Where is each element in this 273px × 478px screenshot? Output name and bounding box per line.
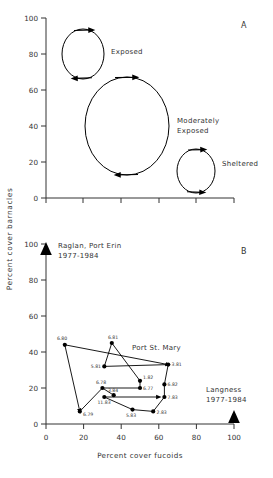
- panel-a-x-ticks: [46, 198, 234, 203]
- langness-label-line1: Langness: [206, 386, 242, 394]
- y-ticklabel-40: 40: [29, 348, 39, 357]
- datapoint-label: 6.81: [108, 335, 118, 340]
- panel-b-svg: 0 20 40 60 80 100 0 20 40 60 8: [14, 232, 273, 478]
- panel-b-letter: B: [241, 247, 247, 256]
- x-ticklabel-20: 20: [79, 433, 89, 442]
- raglan-label-line2: 1977-1984: [58, 252, 99, 260]
- datapoint-marker: [166, 363, 170, 367]
- traj-segment-1: [65, 345, 80, 412]
- datapoint: 3.84: [108, 388, 118, 397]
- panel-b-site-label: Port St. Mary: [132, 344, 181, 352]
- cycle-moderately-exposed-ellipse: [85, 77, 169, 175]
- datapoint-label: 6.77: [143, 386, 153, 391]
- annotation-raglan: Raglan, Port Erin 1977-1984: [40, 242, 121, 260]
- datapoint-marker: [138, 386, 142, 390]
- datapoint: 6.78: [96, 380, 106, 390]
- datapoint-marker: [100, 386, 104, 390]
- panel-b-x-ticks: [46, 424, 234, 429]
- datapoint-marker: [78, 409, 82, 413]
- cycle-moderately-exposed-arrow-bottom: [117, 175, 138, 176]
- datapoint-label: 6.79: [83, 412, 93, 417]
- y-ticklabel-0: 0: [33, 194, 38, 203]
- cycle-sheltered: Sheltered: [177, 149, 258, 193]
- x-ticklabel-60: 60: [154, 433, 164, 442]
- y-ticklabel-20: 20: [29, 384, 39, 393]
- datapoint-marker: [138, 379, 142, 383]
- datapoint-label: 1.82: [143, 375, 153, 380]
- y-axis-label: Percent cover barnacles: [5, 188, 14, 291]
- datapoint-label: 5.81: [91, 364, 101, 369]
- panel-b-x-ticklabels: 0 20 40 60 80 100: [44, 433, 242, 442]
- datapoint: 3.81: [166, 362, 182, 367]
- datapoint: 6.79: [78, 409, 94, 417]
- datapoint-label: 2.83: [157, 410, 167, 415]
- x-ticklabel-80: 80: [192, 433, 202, 442]
- annotation-langness: Langness 1977-1984: [206, 386, 247, 423]
- cycle-moderately-exposed-label-line2: Exposed: [177, 127, 209, 135]
- datapoint-label: 5.83: [126, 413, 136, 418]
- langness-triangle-marker: [228, 410, 240, 423]
- datapoint: 6.81: [108, 335, 118, 345]
- datapoint-label: 6.82: [168, 382, 178, 387]
- datapoint-marker: [162, 382, 166, 386]
- y-ticklabel-100: 100: [24, 240, 38, 249]
- cycle-exposed-label: Exposed: [111, 48, 143, 56]
- datapoint: 2.83: [151, 409, 167, 415]
- traj-segment-14: [133, 410, 154, 412]
- datapoint-marker: [63, 343, 67, 347]
- datapoint-marker: [130, 408, 134, 412]
- cycle-exposed: Exposed: [62, 29, 143, 79]
- raglan-label-line1: Raglan, Port Erin: [58, 242, 121, 250]
- y-ticklabel-80: 80: [29, 50, 39, 59]
- datapoint-marker: [102, 395, 106, 399]
- panel-b: 0 20 40 60 80 100 0 20 40 60 8: [14, 232, 273, 478]
- cycle-moderately-exposed: Moderately Exposed: [85, 77, 219, 175]
- cycle-exposed-ellipse: [62, 29, 104, 79]
- datapoint: 11.83: [97, 395, 110, 405]
- cycle-moderately-exposed-label-line1: Moderately: [177, 117, 219, 125]
- datapoint: 7.83: [162, 395, 178, 400]
- datapoint-label: 7.83: [168, 395, 178, 400]
- panel-a-svg: 0 20 40 60 80 100: [14, 0, 273, 232]
- y-ticklabel-60: 60: [29, 312, 39, 321]
- cycle-sheltered-label: Sheltered: [222, 160, 258, 168]
- y-ticklabel-100: 100: [24, 14, 38, 23]
- datapoint: 6.80: [57, 336, 67, 347]
- cycle-exposed-arrow-bottom: [74, 78, 92, 79]
- y-ticklabel-40: 40: [29, 122, 39, 131]
- datapoint-marker: [110, 341, 114, 345]
- cycle-exposed-arrow-top: [74, 30, 92, 31]
- datapoint-marker: [162, 395, 166, 399]
- y-ticklabel-0: 0: [33, 420, 38, 429]
- datapoint: 1.82: [138, 375, 153, 383]
- traj-segment-8: [104, 343, 112, 366]
- y-ticklabel-60: 60: [29, 86, 39, 95]
- datapoint-label: 3.84: [108, 388, 118, 393]
- figure-root: Percent cover barnacles 0 20 40 60: [0, 0, 273, 478]
- x-ticklabel-40: 40: [117, 433, 127, 442]
- datapoint: 5.83: [126, 408, 136, 419]
- traj-segment-9: [104, 365, 168, 367]
- datapoint-label: 6.78: [96, 380, 106, 385]
- x-ticklabel-0: 0: [44, 433, 49, 442]
- panel-a-y-ticklabels: 0 20 40 60 80 100: [24, 14, 38, 203]
- y-ticklabel-20: 20: [29, 158, 39, 167]
- panel-a-letter: A: [241, 21, 247, 30]
- datapoint-label: 6.80: [57, 336, 67, 341]
- langness-label-line2: 1977-1984: [206, 396, 247, 404]
- x-ticklabel-100: 100: [227, 433, 241, 442]
- datapoint: 5.81: [91, 364, 107, 369]
- datapoint: 6.77: [138, 386, 153, 391]
- y-ticklabel-80: 80: [29, 276, 39, 285]
- datapoint-marker: [102, 364, 106, 368]
- datapoint-marker: [112, 393, 116, 397]
- datapoint-label: 11.83: [97, 400, 110, 405]
- cycle-sheltered-ellipse: [177, 149, 215, 193]
- panel-a-y-ticks: [41, 18, 46, 198]
- panel-b-x-axis-label: Percent cover fucoids: [97, 451, 183, 460]
- panel-b-y-ticklabels: 0 20 40 60 80 100: [24, 240, 38, 429]
- datapoint-label: 3.81: [172, 362, 182, 367]
- datapoint-marker: [151, 409, 155, 413]
- cycle-sheltered-arrow-bottom: [187, 192, 203, 193]
- panel-a: 0 20 40 60 80 100: [14, 0, 273, 232]
